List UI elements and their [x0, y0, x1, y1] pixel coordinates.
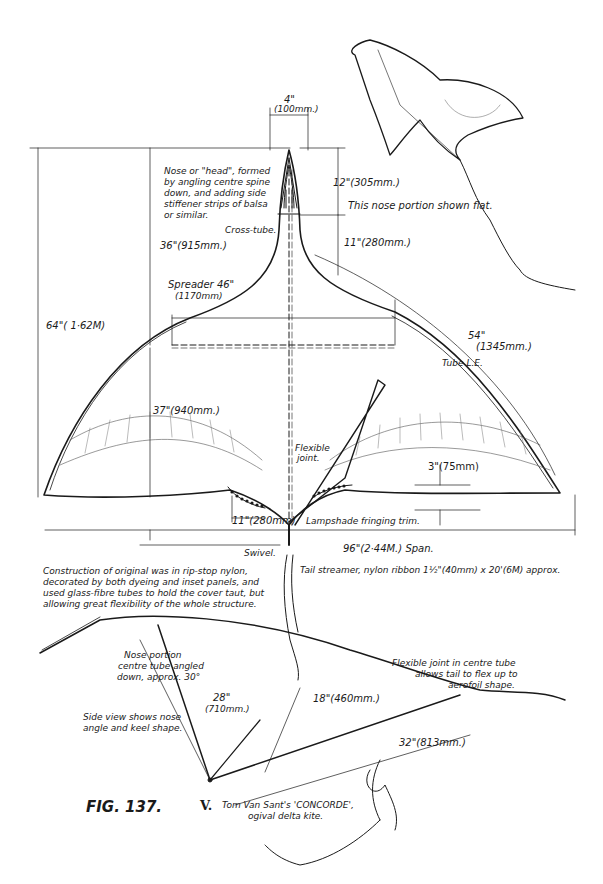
side-note-1: Side view shows nose	[83, 712, 181, 722]
nose-flat-note: This nose portion shown flat.	[348, 200, 493, 211]
nose-width-mm: (100mm.)	[274, 104, 319, 114]
side-nose-note-1: Nose portion	[124, 650, 182, 660]
head-to-spreader-label: 36"(915mm.)	[160, 240, 227, 251]
leading-edge-inch: 54"	[468, 330, 485, 341]
construction-note-3: used glass-fibre tubes to hold the cover…	[43, 588, 264, 598]
nose-note-1: Nose or "head", formed	[164, 166, 270, 176]
lower-height-label: 37"(940mm.)	[153, 405, 220, 416]
keel	[158, 625, 460, 780]
flexible-joint-1: Flexible	[295, 443, 330, 453]
cross-tube-label: Cross-tube.	[225, 225, 276, 235]
nose-note-3: down, and adding side	[164, 188, 266, 198]
tube-le-label: Tube L.E.	[442, 358, 483, 368]
keel-front-inch: 28"	[213, 692, 230, 703]
nose-note-2: by angling centre spine	[164, 177, 270, 187]
construction-note-4: allowing great flexibility of the whole …	[43, 599, 257, 609]
trailing-drop-label: 3"(75mm)	[428, 461, 479, 472]
figure-caption-2: ogival delta kite.	[248, 811, 323, 821]
nose-note-5: or similar.	[164, 210, 208, 220]
dimension-lines	[30, 108, 575, 545]
span-label: 96"(2·44M.) Span.	[343, 543, 434, 554]
neck-length-label: 11"(280mm.)	[344, 237, 411, 248]
construction-note-1: Construction of original was in rip-stop…	[43, 566, 248, 576]
tail-streamer	[284, 555, 298, 680]
leading-edge-mm: (1345mm.)	[476, 341, 532, 352]
flexible-joint-2: joint.	[297, 453, 320, 463]
flex-note-3: aerofoil shape.	[448, 680, 515, 690]
side-nose-note-3: down, approx. 30°	[117, 672, 200, 682]
figure-numeral: V.	[200, 800, 212, 811]
spreader-label-1: Spreader 46"	[168, 279, 234, 290]
flying-kite-sketch	[352, 40, 575, 290]
keel-rear-label: 32"(813mm.)	[399, 737, 466, 748]
side-view	[40, 616, 565, 865]
tail-streamer-label: Tail streamer, nylon ribbon 1½"(40mm) x …	[300, 565, 560, 575]
figure-caption-1: Tom Van Sant's 'CONCORDE',	[222, 800, 354, 810]
keel-front-mm: (710mm.)	[205, 704, 250, 714]
flex-note-2: allows tail to flex up to	[415, 669, 518, 679]
construction-note-2: decorated by both dyeing and inset panel…	[43, 577, 259, 587]
side-nose-note-2: centre tube angled	[118, 661, 204, 671]
spreader-label-2: (1170mm)	[175, 291, 222, 301]
trim-width-label: 11"(280mm)	[232, 515, 296, 526]
lampshade-label: Lampshade fringing trim.	[306, 516, 420, 526]
overall-height-label: 64"( 1·62M)	[46, 320, 105, 331]
swivel-label: Swivel.	[244, 548, 276, 558]
nose-note-4: stiffener strips of balsa	[164, 199, 268, 209]
flex-note-1: Flexible joint in centre tube	[392, 658, 516, 668]
keel-height-label: 18"(460mm.)	[313, 693, 380, 704]
kite-drawing	[0, 0, 603, 884]
figure-number: FIG. 137.	[86, 798, 162, 816]
nose-length-label: 12"(305mm.)	[333, 177, 400, 188]
side-note-2: angle and keel shape.	[83, 723, 182, 733]
